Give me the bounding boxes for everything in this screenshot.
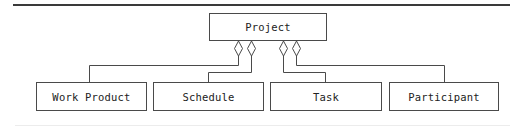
aggregation-diamond-icon bbox=[280, 41, 288, 56]
connector-task bbox=[280, 41, 326, 82]
class-box-task: Task bbox=[270, 82, 382, 111]
class-box-work-product: Work Product bbox=[36, 82, 147, 111]
class-label-work-product: Work Product bbox=[52, 91, 130, 103]
bottom-rule bbox=[15, 125, 510, 126]
connector-participant bbox=[293, 41, 445, 82]
aggregation-diamond-icon bbox=[235, 41, 243, 56]
class-box-project: Project bbox=[209, 13, 327, 41]
class-box-participant: Participant bbox=[389, 82, 499, 111]
class-label-task: Task bbox=[313, 91, 339, 103]
class-box-schedule: Schedule bbox=[153, 82, 264, 111]
connector-work-product bbox=[90, 41, 243, 82]
class-label-project: Project bbox=[245, 21, 291, 33]
aggregation-diamond-icon bbox=[293, 41, 301, 56]
aggregation-diamond-icon bbox=[248, 41, 256, 56]
connector-schedule bbox=[209, 41, 256, 82]
class-label-schedule: Schedule bbox=[182, 91, 234, 103]
class-label-participant: Participant bbox=[408, 91, 480, 103]
